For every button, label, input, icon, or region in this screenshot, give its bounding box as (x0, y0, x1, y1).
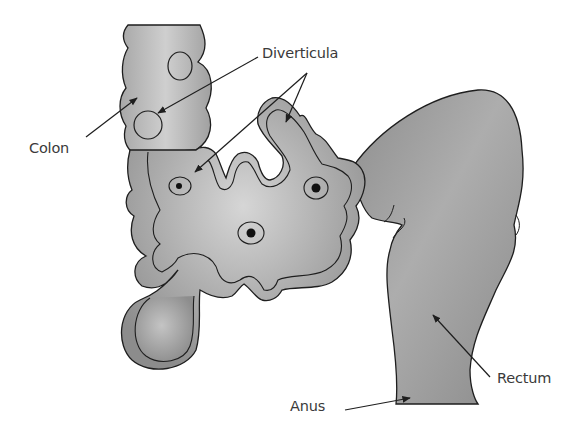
label-colon: Colon (29, 140, 69, 156)
label-rectum: Rectum (497, 370, 551, 386)
label-diverticula: Diverticula (262, 45, 338, 61)
label-anus: Anus (290, 398, 325, 414)
colon-shape (120, 25, 211, 154)
diverticula-diagram (0, 0, 581, 435)
rectum-shape (352, 90, 523, 404)
